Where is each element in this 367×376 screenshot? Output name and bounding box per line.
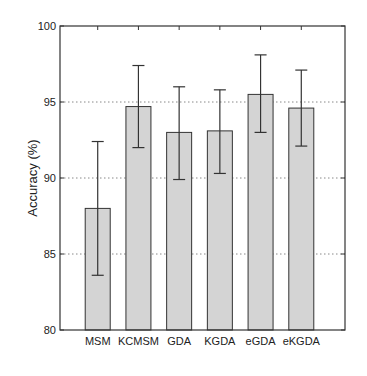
x-axis-ticks: MSMKCMSMGDAKGDAeGDAeKGDA xyxy=(85,26,321,347)
y-tick-label: 95 xyxy=(44,96,56,108)
y-tick-label: 80 xyxy=(44,324,56,336)
x-tick-label: MSM xyxy=(85,335,111,347)
y-tick-label: 85 xyxy=(44,248,56,260)
bars xyxy=(85,94,314,330)
x-tick-label: KGDA xyxy=(204,335,236,347)
y-axis-label: Accuracy (%) xyxy=(25,139,40,216)
error-bars xyxy=(92,55,308,275)
x-tick-label: eGDA xyxy=(246,335,277,347)
bar-chart: 80859095100 MSMKCMSMGDAKGDAeGDAeKGDA Acc… xyxy=(0,0,367,376)
y-tick-label: 90 xyxy=(44,172,56,184)
x-tick-label: GDA xyxy=(167,335,192,347)
x-tick-label: eKGDA xyxy=(283,335,321,347)
y-tick-label: 100 xyxy=(38,20,56,32)
x-tick-label: KCMSM xyxy=(118,335,159,347)
